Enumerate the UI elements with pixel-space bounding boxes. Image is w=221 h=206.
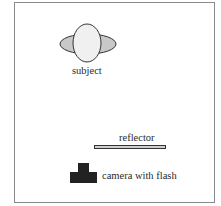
reflector-label: reflector (119, 133, 155, 144)
subject-figure-icon (60, 24, 116, 62)
subject-label: subject (72, 66, 102, 77)
reflector-icon (95, 146, 166, 149)
camera-label: camera with flash (102, 171, 177, 182)
camera-icon (70, 163, 97, 183)
